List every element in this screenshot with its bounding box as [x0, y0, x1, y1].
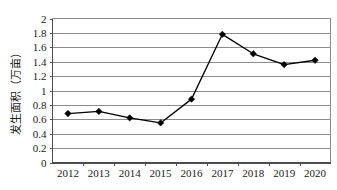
y-axis-ticks: 00.20.40.60.811.21.41.61.82 [33, 13, 53, 169]
y-tick-label-1.4: 1.4 [33, 56, 47, 68]
y-tick-label-1.2: 1.2 [33, 70, 47, 82]
x-tick-label-2014: 2014 [119, 167, 142, 179]
x-tick-label-2020: 2020 [304, 167, 327, 179]
plot-frame [53, 19, 331, 163]
x-axis-ticks: 201220132014201520162017201820192020 [57, 163, 327, 179]
y-tick-label-0: 0 [41, 157, 47, 169]
x-tick-label-2017: 2017 [211, 167, 234, 179]
y-tick-label-0.6: 0.6 [33, 113, 47, 125]
x-tick-label-2016: 2016 [181, 167, 204, 179]
chart-canvas: 00.20.40.60.811.21.41.61.822012201320142… [0, 0, 337, 190]
y-tick-label-0.2: 0.2 [33, 142, 47, 154]
data-point-2017 [219, 31, 225, 37]
x-tick-label-2018: 2018 [242, 167, 265, 179]
x-tick-label-2012: 2012 [57, 167, 79, 179]
y-tick-label-0.8: 0.8 [33, 99, 47, 111]
y-tick-label-1: 1 [41, 85, 47, 97]
x-tick-label-2015: 2015 [150, 167, 173, 179]
gridlines-group [53, 34, 331, 149]
data-point-2012 [65, 110, 71, 116]
x-tick-label-2013: 2013 [88, 167, 111, 179]
x-tick-label-2019: 2019 [273, 167, 296, 179]
data-point-2014 [127, 115, 133, 121]
data-point-2013 [96, 108, 102, 114]
y-tick-label-1.8: 1.8 [33, 27, 47, 39]
y-axis-label: 发生面积（万亩） [9, 47, 22, 135]
y-tick-label-0.4: 0.4 [33, 128, 47, 140]
data-point-2018 [250, 51, 256, 57]
y-tick-label-1.6: 1.6 [33, 41, 47, 53]
y-tick-label-2: 2 [41, 13, 47, 25]
line-chart: 00.20.40.60.811.21.41.61.822012201320142… [0, 0, 337, 190]
